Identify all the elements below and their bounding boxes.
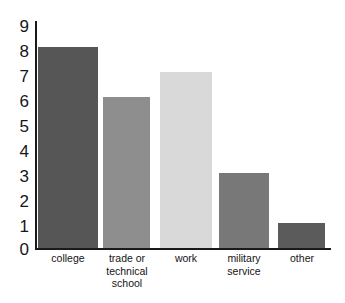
bar-trade-or-technical-school[interactable] bbox=[103, 97, 150, 248]
bar-military-service[interactable] bbox=[219, 173, 269, 248]
bar-college[interactable] bbox=[38, 47, 98, 248]
bar-other[interactable] bbox=[278, 223, 325, 248]
x-label-line: school bbox=[90, 277, 164, 290]
x-axis-category-labels: college trade ortechnicalschool work mil… bbox=[0, 252, 345, 303]
bar-chart: 9 8 7 6 5 4 3 2 1 0 college trade ortech… bbox=[0, 0, 345, 303]
bars-layer bbox=[0, 0, 345, 260]
bar-work[interactable] bbox=[160, 72, 212, 248]
x-label-line: service bbox=[203, 265, 285, 278]
x-label-other: other bbox=[266, 252, 338, 265]
x-label-line: technical bbox=[90, 265, 164, 278]
plot-area: 9 8 7 6 5 4 3 2 1 0 college trade ortech… bbox=[0, 0, 345, 303]
x-label-line: other bbox=[266, 252, 338, 265]
